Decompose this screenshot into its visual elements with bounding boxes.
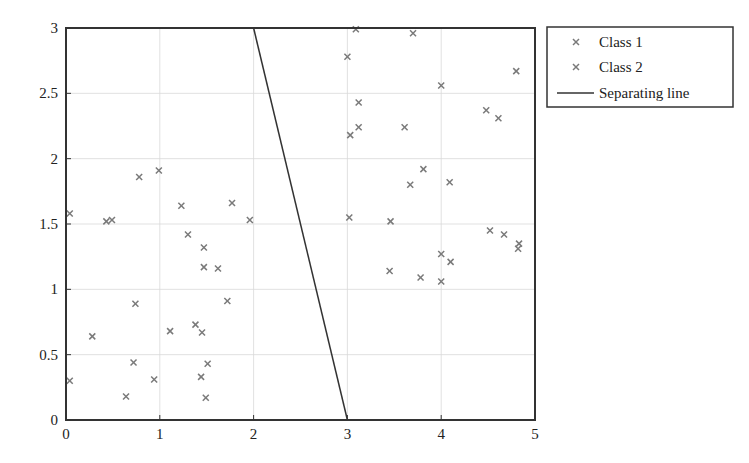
x-marker-icon <box>407 182 413 188</box>
y-tick-label: 2 <box>51 151 59 167</box>
x-marker-icon <box>402 124 408 130</box>
x-marker-icon <box>418 275 424 281</box>
y-tick-label: 0 <box>51 412 59 428</box>
x-marker-icon <box>516 241 522 247</box>
x-marker-icon <box>224 298 230 304</box>
x-marker-icon <box>123 393 129 399</box>
data-points <box>67 26 522 400</box>
x-marker-icon <box>103 218 109 224</box>
x-marker-icon <box>356 124 362 130</box>
y-tick-label: 3 <box>51 20 59 36</box>
x-marker-icon <box>67 378 73 384</box>
x-marker-icon <box>132 301 138 307</box>
x-marker-icon <box>136 174 142 180</box>
x-marker-icon <box>501 231 507 237</box>
x-marker-icon <box>495 115 501 121</box>
x-marker-icon <box>185 231 191 237</box>
x-marker-icon <box>347 132 353 138</box>
y-tick-label: 1 <box>51 281 59 297</box>
x-marker-icon <box>388 218 394 224</box>
axis-ticks: 01234500.511.522.53 <box>39 20 539 442</box>
x-marker-icon <box>483 107 489 113</box>
x-marker-icon <box>67 211 73 217</box>
legend: Class 1 Class 2 Separating line <box>547 27 733 107</box>
x-marker-icon <box>448 259 454 265</box>
x-tick-label: 5 <box>531 426 539 442</box>
legend-label: Separating line <box>599 85 690 101</box>
legend-label: Class 2 <box>599 59 643 75</box>
y-tick-label: 0.5 <box>39 347 58 363</box>
x-marker-icon <box>487 228 493 234</box>
x-marker-icon <box>356 99 362 105</box>
x-marker-icon <box>109 217 115 223</box>
x-tick-label: 1 <box>156 426 164 442</box>
x-marker-icon <box>515 246 521 252</box>
x-marker-icon <box>229 200 235 206</box>
x-marker-icon <box>151 376 157 382</box>
x-marker-icon <box>167 328 173 334</box>
x-marker-icon <box>89 333 95 339</box>
y-tick-label: 1.5 <box>39 216 58 232</box>
x-tick-label: 4 <box>437 426 445 442</box>
x-marker-icon <box>205 361 211 367</box>
x-marker-icon <box>192 322 198 328</box>
x-marker-icon <box>201 264 207 270</box>
x-marker-icon <box>203 395 209 401</box>
x-marker-icon <box>156 167 162 173</box>
x-marker-icon <box>247 217 253 223</box>
x-tick-label: 0 <box>62 426 70 442</box>
x-marker-icon <box>199 329 205 335</box>
x-marker-icon <box>201 245 207 251</box>
x-tick-label: 3 <box>344 426 352 442</box>
x-marker-icon <box>198 374 204 380</box>
x-tick-label: 2 <box>250 426 258 442</box>
x-marker-icon <box>178 203 184 209</box>
legend-label: Class 1 <box>599 34 643 50</box>
x-marker-icon <box>513 68 519 74</box>
x-marker-icon <box>420 166 426 172</box>
scatter-chart: 01234500.511.522.53 Class 1 Class 2 Sepa… <box>0 0 749 463</box>
x-marker-icon <box>131 360 137 366</box>
y-tick-label: 2.5 <box>39 85 58 101</box>
x-marker-icon <box>410 30 416 36</box>
x-marker-icon <box>447 179 453 185</box>
x-marker-icon <box>215 265 221 271</box>
x-marker-icon <box>387 268 393 274</box>
